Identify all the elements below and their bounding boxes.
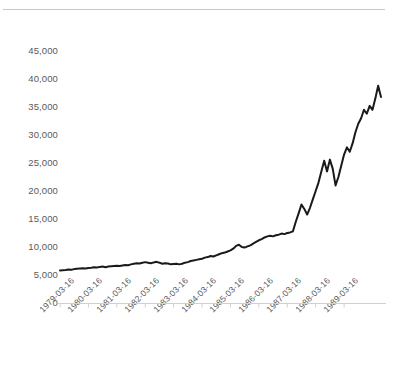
chart-figure: 05,00010,00015,00020,00025,00030,00035,0… xyxy=(0,0,394,371)
line-chart-plot xyxy=(0,0,394,371)
x-axis-ticks xyxy=(60,304,344,308)
data-series-line xyxy=(60,86,381,271)
plot-area: 05,00010,00015,00020,00025,00030,00035,0… xyxy=(0,0,394,371)
